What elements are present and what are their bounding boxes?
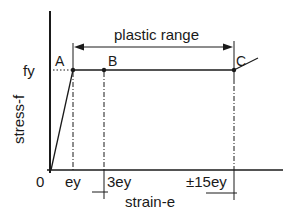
3ey-tick-label: 3ey	[107, 173, 132, 190]
stress-strain-diagram: plastic range A B C fy 0 ey 3ey ±15ey st…	[0, 0, 298, 222]
arrowhead-right-icon	[223, 44, 233, 51]
origin-label: 0	[36, 173, 44, 190]
15ey-tick-label: ±15ey	[186, 173, 227, 190]
point-a-label: A	[55, 53, 65, 69]
x-axis-label: strain-e	[125, 193, 175, 210]
ey-tick-label: ey	[65, 173, 81, 190]
point-b-dot	[102, 68, 106, 72]
elastic-line	[51, 70, 73, 170]
point-b-label: B	[108, 53, 117, 69]
fy-tick-label: fy	[23, 62, 35, 79]
arrowhead-left-icon	[74, 44, 84, 51]
plastic-range-label: plastic range	[114, 26, 199, 43]
y-axis-label: stress-f	[10, 94, 27, 144]
point-a-dot	[71, 68, 75, 72]
point-c-label: C	[236, 53, 246, 69]
